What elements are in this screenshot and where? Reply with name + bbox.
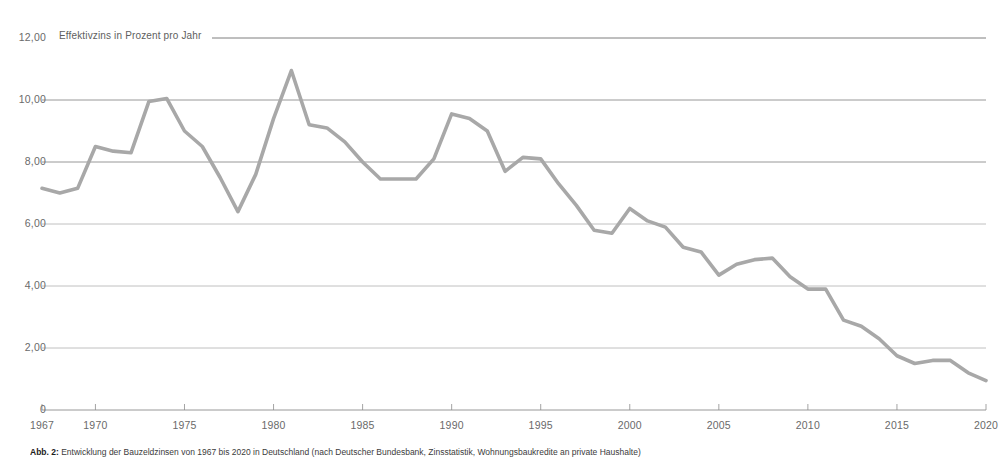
x-tick-label-1980: 1980 xyxy=(244,419,304,431)
x-tick-label-2015: 2015 xyxy=(867,419,927,431)
x-tick-label-2000: 2000 xyxy=(600,419,660,431)
line-chart-svg xyxy=(0,0,1004,438)
chart-plot-area: Effektivzins in Prozent pro Jahr 02,004,… xyxy=(0,0,1004,438)
y-tick-label-0: 0 xyxy=(0,403,46,415)
y-tick-label-8: 8,00 xyxy=(0,155,46,167)
x-tick-label-2010: 2010 xyxy=(778,419,838,431)
y-tick-label-10: 10,00 xyxy=(0,93,46,105)
x-tick-label-1975: 1975 xyxy=(154,419,214,431)
caption-label: Abb. 2: xyxy=(30,447,59,457)
figure-container: Effektivzins in Prozent pro Jahr 02,004,… xyxy=(0,0,1004,460)
x-tick-label-1985: 1985 xyxy=(333,419,393,431)
x-tick-label-1990: 1990 xyxy=(422,419,482,431)
data-line-effektivzins xyxy=(42,71,986,381)
y-tick-label-12: 12,00 xyxy=(0,31,46,43)
gridlines-group xyxy=(42,38,986,348)
figure-caption: Abb. 2: Entwicklung der Bauzeldzinsen vo… xyxy=(30,446,990,460)
x-tickmarks-group xyxy=(42,404,986,410)
x-tick-label-2020: 2020 xyxy=(956,419,1004,431)
x-tick-label-1970: 1970 xyxy=(65,419,125,431)
x-tick-label-2005: 2005 xyxy=(689,419,749,431)
y-tick-label-2: 2,00 xyxy=(0,341,46,353)
y-tick-label-6: 6,00 xyxy=(0,217,46,229)
x-tick-label-1967: 1967 xyxy=(12,419,72,431)
x-tick-label-1995: 1995 xyxy=(511,419,571,431)
y-tick-label-4: 4,00 xyxy=(0,279,46,291)
caption-text: Entwicklung der Bauzeldzinsen von 1967 b… xyxy=(59,447,641,457)
